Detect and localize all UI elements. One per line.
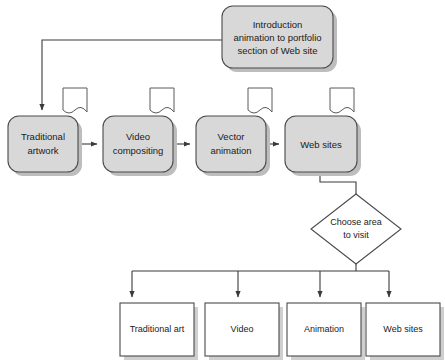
- note-page-icon: [150, 88, 174, 113]
- web-sites-line1: Web sites: [300, 139, 342, 150]
- leaf-video-label: Video: [231, 324, 254, 334]
- traditional-artwork-line1: Traditional: [21, 131, 65, 142]
- leaf-traditional-art[interactable]: Traditional art: [120, 303, 198, 360]
- web-sites[interactable]: Web sites: [285, 116, 361, 176]
- leaf-web-sites-label: Web sites: [383, 324, 423, 334]
- introduction-node[interactable]: Introduction animation to portfolio sect…: [222, 6, 337, 72]
- vector-animation-line1: Vector: [218, 131, 245, 142]
- leaf-web-sites[interactable]: Web sites: [366, 303, 444, 360]
- choose-area-decision-line2: to visit: [343, 230, 369, 240]
- introduction-node-line2: animation to portfolio: [233, 32, 321, 43]
- note-page-icon: [248, 88, 272, 113]
- leaf-video[interactable]: Video: [205, 303, 283, 360]
- traditional-artwork[interactable]: Traditional artwork: [8, 116, 82, 176]
- leaf-traditional-art-label: Traditional art: [130, 324, 185, 334]
- note-page-icon: [63, 88, 87, 113]
- traditional-artwork-line2: artwork: [27, 145, 58, 156]
- video-compositing-line1: Video: [126, 131, 150, 142]
- choose-area-decision[interactable]: Choose area to visit: [311, 194, 401, 264]
- note-page-icon: [330, 88, 354, 113]
- leaf-animation-label: Animation: [304, 324, 344, 334]
- vector-animation-line2: animation: [210, 145, 251, 156]
- flowchart-diagram: Introduction animation to portfolio sect…: [0, 0, 445, 364]
- video-compositing[interactable]: Video compositing: [103, 116, 177, 176]
- choose-area-decision-line1: Choose area: [330, 217, 382, 227]
- video-compositing-line2: compositing: [113, 145, 164, 156]
- vector-animation[interactable]: Vector animation: [196, 116, 270, 176]
- flowchart-canvas: Introduction animation to portfolio sect…: [0, 0, 445, 364]
- introduction-node-line3: section of Web site: [237, 45, 317, 56]
- leaf-animation[interactable]: Animation: [287, 303, 365, 360]
- connector-decision-to-bus: [132, 264, 389, 297]
- introduction-node-line1: Introduction: [253, 19, 303, 30]
